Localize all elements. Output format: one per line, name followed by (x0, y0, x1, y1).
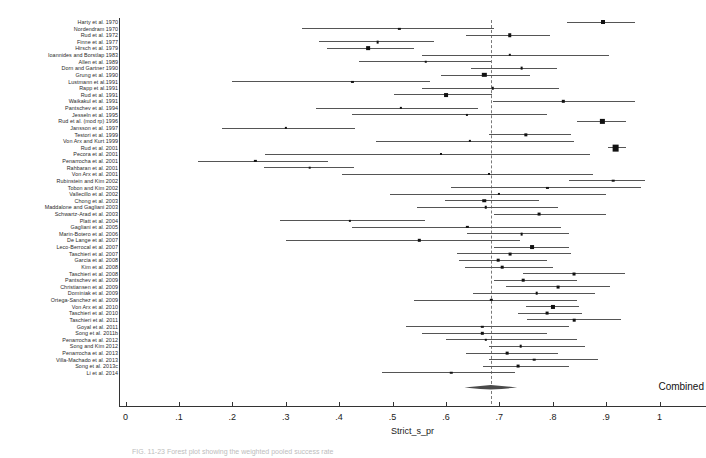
study-label: Rud et al. (mod rp) 1996 (0, 118, 118, 124)
x-axis-tick (232, 402, 233, 407)
study-label: Villa-Machado et al. 2013 (0, 357, 118, 363)
forest-row (119, 369, 706, 377)
confidence-interval-line (406, 326, 569, 327)
study-label: Song et al. 2013c (0, 363, 118, 369)
study-estimate-marker (351, 81, 353, 83)
confidence-interval-line (466, 353, 558, 354)
confidence-interval-line (494, 280, 577, 281)
study-estimate-marker (519, 345, 522, 348)
confidence-interval-line (198, 161, 329, 162)
study-label: Taschieri et al. 2011 (0, 317, 118, 323)
study-estimate-marker (492, 87, 494, 89)
x-axis-tick-label: 1 (657, 412, 662, 422)
study-label: Rud et al. 2001 (0, 145, 118, 151)
figure-caption: FIG. 11-23 Forest plot showing the weigh… (132, 448, 333, 455)
study-label: Penarrocha et al. 2012 (0, 337, 118, 343)
study-estimate-marker (501, 266, 504, 269)
study-estimate-marker (508, 33, 512, 37)
study-estimate-marker (509, 252, 512, 255)
study-label: Platt et al. 2004 (0, 218, 118, 224)
x-axis-tick-label: .5 (389, 412, 397, 422)
x-axis-tick (286, 402, 287, 407)
x-axis-line (119, 406, 706, 407)
study-estimate-marker (522, 279, 525, 282)
x-axis-tick (606, 402, 607, 407)
confidence-interval-line (459, 260, 547, 261)
confidence-interval-line (376, 141, 574, 142)
x-axis: Strict_s_pr 0.1.2.3.4.5.6.7.8.91 (119, 406, 706, 440)
study-estimate-marker (497, 259, 500, 262)
study-label: De Lange et al. 2007 (0, 237, 118, 243)
confidence-interval-line (445, 200, 540, 201)
x-axis-tick-label: .6 (442, 412, 450, 422)
x-axis-tick-label: 0 (123, 412, 128, 422)
study-label: Song and Kim 2012 (0, 343, 118, 349)
confidence-interval-line (446, 339, 577, 340)
study-label: Rud et al. 1991 (0, 92, 118, 98)
study-estimate-marker (509, 54, 511, 56)
confidence-interval-line (222, 128, 356, 129)
study-estimate-marker (440, 153, 442, 155)
combined-row-label: Combined (658, 381, 704, 392)
study-label: Li et al. 2014 (0, 370, 118, 376)
study-label: Waikakul et al. 1991 (0, 98, 118, 104)
study-estimate-marker (285, 127, 287, 129)
x-axis-tick (553, 402, 554, 407)
diamond-shape (464, 385, 517, 390)
study-label-column: Harty et al. 1970Nordendram 1970Rud et a… (0, 0, 118, 400)
study-estimate-marker (506, 352, 509, 355)
study-estimate-marker (485, 339, 487, 341)
study-estimate-marker (551, 305, 555, 309)
study-estimate-marker (612, 180, 615, 183)
plot-area (119, 18, 706, 406)
study-estimate-marker (450, 372, 452, 374)
study-estimate-marker (485, 206, 487, 208)
study-estimate-marker (601, 20, 605, 24)
study-estimate-marker (254, 160, 256, 162)
confidence-interval-line (473, 293, 596, 294)
x-axis-tick (660, 402, 661, 407)
x-axis-tick (446, 402, 447, 407)
study-estimate-marker (398, 27, 400, 29)
x-axis-tick (393, 402, 394, 407)
combined-estimate-row (119, 382, 706, 392)
study-estimate-marker (573, 319, 576, 322)
study-estimate-marker (399, 107, 401, 109)
confidence-interval-line (465, 267, 553, 268)
study-label: Von Arx et al. 2001 (0, 171, 118, 177)
confidence-interval-line (280, 220, 424, 221)
study-estimate-marker (349, 219, 351, 221)
study-label: Kim et al. 2008 (0, 264, 118, 270)
study-label: Rubinstein and Kim 2002 (0, 178, 118, 184)
study-label: Rud et al. 1972 (0, 32, 118, 38)
study-label: Schwartz-Arad et al. 2003 (0, 211, 118, 217)
study-estimate-marker (557, 285, 560, 288)
x-axis-tick-label: .8 (549, 412, 557, 422)
study-label: Pecora et al. 2001 (0, 151, 118, 157)
study-estimate-marker (538, 213, 541, 216)
x-axis-tick (179, 402, 180, 407)
study-label: Jansson et al. 1997 (0, 125, 118, 131)
study-estimate-marker (546, 312, 549, 315)
confidence-interval-line (489, 134, 571, 135)
study-label: Jesseln et al. 1995 (0, 112, 118, 118)
study-label: Lustmann et al.1991 (0, 79, 118, 85)
study-label: Pantschev et al. 1994 (0, 105, 118, 111)
x-axis-tick (126, 402, 127, 407)
study-label: Garcia et al. 2008 (0, 257, 118, 263)
study-label: Dominiak et al. 2009 (0, 290, 118, 296)
study-label: Gagliani et al. 2005 (0, 224, 118, 230)
combined-estimate-diamond (464, 385, 517, 390)
study-estimate-marker (469, 140, 471, 142)
study-label: Tobon and Kim 2002 (0, 185, 118, 191)
confidence-interval-line (489, 346, 585, 347)
study-label: Chong et al. 2003 (0, 198, 118, 204)
confidence-interval-line (414, 300, 577, 301)
confidence-interval-line (457, 253, 572, 254)
x-axis-tick-label: .9 (602, 412, 610, 422)
study-label: Pantschev et al. 2009 (0, 277, 118, 283)
study-label: Taschieri et al. 2010 (0, 310, 118, 316)
confidence-interval-line (569, 180, 645, 181)
study-estimate-marker (424, 60, 426, 62)
study-estimate-marker (562, 100, 564, 102)
